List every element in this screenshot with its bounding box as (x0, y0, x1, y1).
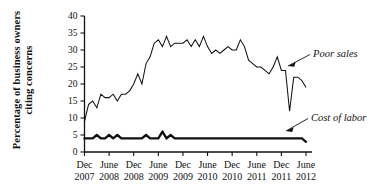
x-tick-label-month: Dec (175, 159, 192, 170)
y-tick-label: 20 (68, 79, 78, 89)
x-tick-label-year: 2009 (148, 171, 168, 182)
poor-sales-label: Poor sales (312, 48, 358, 59)
x-tick-label-month: Dec (224, 159, 241, 170)
x-tick-label-month: Dec (76, 159, 93, 170)
y-tick-label: 15 (68, 96, 78, 106)
x-tick-label-month: Dec (126, 159, 143, 170)
poor-sales-annotation-arrow (288, 55, 310, 67)
y-tick-label: 40 (68, 11, 78, 21)
cost-of-labor-annotation-arrow (286, 119, 308, 132)
y-tick-label: 30 (68, 45, 78, 55)
series-line-cost-of-labor (85, 132, 307, 142)
x-tick-label-year: 2009 (173, 171, 193, 182)
y-tick-label: 35 (68, 28, 78, 38)
chart-figure: Percentage of business owners citing con… (0, 0, 383, 196)
cost-of-labor-label: Cost of labor (311, 112, 367, 123)
x-tick-label-year: 2010 (222, 171, 242, 182)
x-tick-label-year: 2010 (198, 171, 218, 182)
y-tick-label: 0 (73, 147, 78, 157)
y-tick-label: 25 (68, 62, 78, 72)
x-tick-label-month: June (198, 159, 217, 170)
y-tick-label: 10 (68, 113, 78, 123)
x-tick-label-year: 2008 (124, 171, 144, 182)
y-axis-ticks: 0510152025303540 (68, 11, 85, 157)
x-tick-label-year: 2011 (247, 171, 267, 182)
x-tick-label-year: 2007 (75, 171, 95, 182)
series-line-poor-sales (85, 36, 307, 121)
x-tick-label-month: June (248, 159, 267, 170)
x-tick-label-year: 2011 (272, 171, 292, 182)
chart-plot-area: 0510152025303540 Dec2007June2008Dec2008J… (0, 0, 383, 196)
y-tick-label: 5 (73, 130, 78, 140)
x-tick-label-year: 2012 (296, 171, 316, 182)
x-tick-label-month: Dec (273, 159, 290, 170)
x-tick-label-month: June (297, 159, 316, 170)
x-axis-tick-labels: Dec2007June2008Dec2008June2009Dec2009Jun… (75, 159, 317, 182)
x-tick-label-month: June (149, 159, 168, 170)
x-tick-label-year: 2008 (99, 171, 119, 182)
x-tick-label-month: June (100, 159, 119, 170)
